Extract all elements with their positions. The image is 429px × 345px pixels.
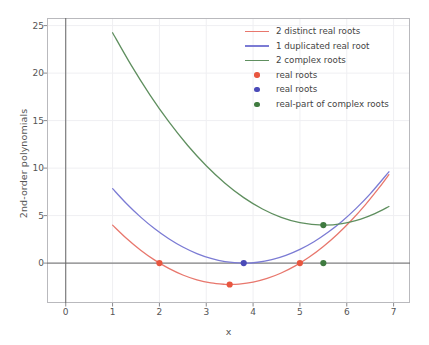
x-tick-label: 7 — [379, 307, 409, 317]
line-glyph-icon — [245, 31, 269, 32]
x-tick-label: 5 — [285, 307, 315, 317]
legend-item[interactable]: real roots — [242, 68, 389, 83]
legend-item-label: real roots — [272, 71, 317, 80]
dot-glyph-icon — [254, 72, 260, 78]
x-axis-label: x — [47, 326, 410, 337]
legend-item[interactable]: real-part of complex roots — [242, 97, 389, 112]
x-axis-tick-labels: 01234567 — [0, 307, 429, 327]
line-glyph-icon — [245, 45, 269, 46]
legend-item-label: real roots — [272, 85, 317, 94]
legend-item[interactable]: 1 duplicated real root — [242, 39, 389, 54]
legend-dot-swatch — [242, 102, 272, 108]
x-tick-label: 6 — [332, 307, 362, 317]
legend-item[interactable]: 2 complex roots — [242, 53, 389, 68]
dot-glyph-icon — [254, 102, 260, 108]
legend-dot-swatch — [242, 72, 272, 78]
chart-figure: 0510152025 01234567 2nd-order polynomial… — [0, 0, 429, 345]
dot-glyph-icon — [254, 87, 260, 93]
data-point-markers — [156, 222, 326, 288]
y-tick-label: 25 — [18, 21, 44, 31]
legend-dot-swatch — [242, 87, 272, 93]
legend-item-label: 2 complex roots — [272, 56, 346, 65]
legend-item-label: 2 distinct real roots — [272, 27, 360, 36]
y-tick-label: 0 — [18, 258, 44, 268]
line-glyph-icon — [245, 60, 269, 61]
x-tick-label: 2 — [144, 307, 174, 317]
x-tick-label: 4 — [238, 307, 268, 317]
chart-legend: 2 distinct real roots1 duplicated real r… — [238, 20, 395, 116]
legend-item-label: 1 duplicated real root — [272, 42, 369, 51]
legend-item[interactable]: 2 distinct real roots — [242, 24, 389, 39]
legend-item-label: real-part of complex roots — [272, 100, 389, 109]
x-tick-label: 3 — [191, 307, 221, 317]
x-tick-label: 1 — [98, 307, 128, 317]
legend-line-swatch — [242, 45, 272, 46]
y-axis-label: 2nd-order polynomials — [18, 94, 29, 234]
y-tick-label: 20 — [18, 68, 44, 78]
legend-line-swatch — [242, 31, 272, 32]
legend-item[interactable]: real roots — [242, 82, 389, 97]
x-tick-label: 0 — [51, 307, 81, 317]
legend-line-swatch — [242, 60, 272, 61]
